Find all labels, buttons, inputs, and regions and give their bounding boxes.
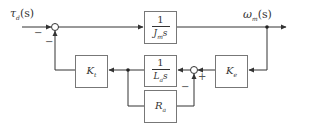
summing-junction-2 — [191, 67, 198, 74]
block-kt: Kt — [76, 56, 107, 87]
branch-point-current — [126, 68, 130, 72]
fraction-bar — [152, 26, 170, 27]
input-signal-label: τd(s) — [10, 7, 34, 21]
block-ra: Ra — [145, 91, 176, 122]
block-la-numerator: 1 — [157, 57, 163, 68]
sum2-sign-ke: + — [198, 72, 206, 82]
sum1-sign-feedback: − — [45, 37, 53, 47]
block-jm-numerator: 1 — [157, 14, 163, 25]
current-to-ra-wire — [128, 70, 145, 106]
summing-junction-1 — [52, 24, 59, 31]
block-jm: 1 Jms — [145, 12, 176, 43]
fraction-bar — [152, 69, 170, 70]
block-la: 1 Las — [145, 56, 176, 86]
output-signal-label: ωm(s) — [243, 8, 272, 22]
branch-point-output — [265, 25, 269, 29]
block-ke: Ke — [216, 56, 247, 87]
block-la-denominator: Las — [153, 71, 167, 85]
sum1-sign-input: − — [34, 28, 42, 38]
sum2-sign-ra: − — [181, 82, 189, 92]
block-jm-denominator: Jms — [154, 28, 168, 42]
speed-feedback-wire — [249, 27, 267, 70]
kt-to-sum1-wire — [55, 31, 75, 70]
